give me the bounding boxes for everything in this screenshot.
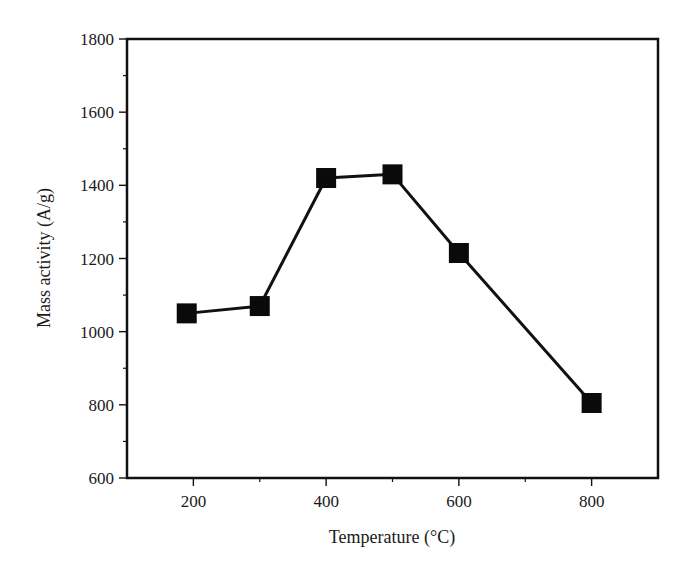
y-tick-label: 600 <box>89 469 115 488</box>
data-series <box>177 164 602 413</box>
y-tick-label: 1400 <box>80 176 114 195</box>
y-axis-title: Mass activity (A/g) <box>34 188 55 328</box>
y-tick-label: 1000 <box>80 323 114 342</box>
series-line <box>187 174 592 403</box>
x-axis-ticks: 200 400 600 800 <box>181 478 605 511</box>
x-tick-label: 800 <box>579 492 605 511</box>
square-marker <box>177 303 197 323</box>
y-tick-label: 1600 <box>80 103 114 122</box>
x-tick-label: 200 <box>181 492 207 511</box>
y-tick-label: 800 <box>89 396 115 415</box>
y-axis-ticks: 600 800 1000 1200 1400 1600 1800 <box>80 30 127 488</box>
y-tick-label: 1800 <box>80 30 114 49</box>
square-marker <box>383 164 403 184</box>
minor-ticks <box>123 76 525 482</box>
y-tick-label: 1200 <box>80 250 114 269</box>
x-tick-label: 600 <box>446 492 472 511</box>
line-chart: 200 400 600 800 600 800 1000 1200 1400 1… <box>0 0 694 573</box>
square-marker <box>250 296 270 316</box>
plot-border <box>127 39 658 478</box>
square-marker <box>316 168 336 188</box>
square-marker <box>449 243 469 263</box>
plot-frame <box>127 39 658 478</box>
x-tick-label: 400 <box>313 492 339 511</box>
x-axis-title: Temperature (°C) <box>329 527 455 548</box>
square-marker <box>582 393 602 413</box>
